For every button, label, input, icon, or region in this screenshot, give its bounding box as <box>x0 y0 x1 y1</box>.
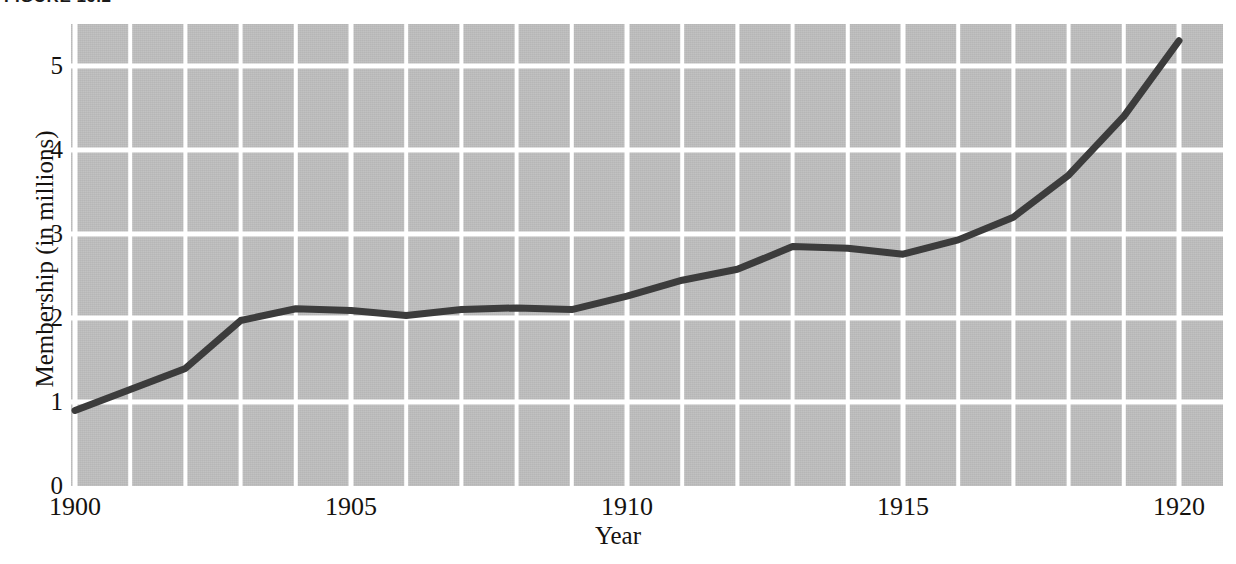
series-line-membership <box>75 41 1179 411</box>
plot-area <box>71 24 1223 486</box>
figure-root: FIGURE 19.2 012345 19001905191019151920 … <box>0 0 1236 564</box>
x-tick-label-1910: 1910 <box>572 492 682 522</box>
series-membership <box>71 24 1223 486</box>
x-tick-label-1905: 1905 <box>296 492 406 522</box>
x-tick-label-1915: 1915 <box>848 492 958 522</box>
x-axis-title: Year <box>0 522 1236 550</box>
x-axis-ticks: 19001905191019151920 <box>71 492 1231 526</box>
figure-caption-clipped: FIGURE 19.2 <box>0 0 1236 9</box>
x-tick-label-1920: 1920 <box>1124 492 1234 522</box>
y-axis-title: Membership (in millions) <box>31 29 59 489</box>
figure-caption-text: FIGURE 19.2 <box>4 0 112 7</box>
x-tick-label-1900: 1900 <box>20 492 130 522</box>
